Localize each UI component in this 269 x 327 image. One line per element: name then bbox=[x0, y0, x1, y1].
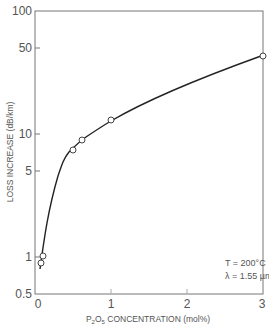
y-tick-labels: 100 50 10 5 1 0.5 bbox=[12, 4, 32, 301]
svg-text:100: 100 bbox=[12, 4, 32, 18]
svg-text:3: 3 bbox=[259, 297, 266, 311]
x-tick-labels: 0 1 2 3 bbox=[35, 297, 266, 311]
fit-curve bbox=[40, 56, 261, 269]
svg-text:0: 0 bbox=[35, 297, 42, 311]
data-point bbox=[38, 260, 44, 266]
svg-text:1: 1 bbox=[25, 250, 32, 264]
x-axis-title: P2O5 CONCENTRATION (mol%) bbox=[86, 314, 210, 325]
data-point bbox=[260, 53, 266, 59]
x-axis-ticks bbox=[111, 289, 187, 294]
data-point bbox=[70, 147, 76, 153]
svg-text:10: 10 bbox=[19, 127, 33, 141]
data-points bbox=[38, 53, 266, 266]
svg-text:50: 50 bbox=[19, 41, 33, 55]
y-axis-title: LOSS INCREASE (dB/km) bbox=[5, 102, 15, 203]
svg-text:5: 5 bbox=[25, 164, 32, 178]
data-point bbox=[108, 117, 114, 123]
data-point bbox=[40, 253, 46, 259]
svg-text:0.5: 0.5 bbox=[15, 287, 32, 301]
svg-text:1: 1 bbox=[108, 297, 115, 311]
wavelength-annotation: λ = 1.55 µm bbox=[225, 271, 269, 281]
data-point bbox=[79, 137, 85, 143]
temperature-annotation: T = 200°C bbox=[225, 258, 266, 268]
svg-text:2: 2 bbox=[184, 297, 191, 311]
loss-chart: 100 50 10 5 1 0.5 0 1 2 3 LOSS INCREASE … bbox=[0, 0, 269, 327]
y-axis-ticks bbox=[35, 48, 40, 257]
